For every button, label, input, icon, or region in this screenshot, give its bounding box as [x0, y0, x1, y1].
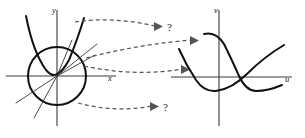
mapping-arrow-middle-upper: [86, 40, 192, 58]
source-ray-upper-right: [57, 44, 97, 76]
mapping-arrow-top-head: [154, 22, 163, 31]
target-u-axis-label: u: [285, 74, 289, 84]
question-mark-bottom: ?: [163, 101, 168, 113]
target-plane-group: v u: [171, 5, 292, 126]
mapping-arrows-group: [75, 20, 199, 111]
source-ray-lower-left: [16, 76, 57, 103]
mapping-arrow-bottom-head: [150, 102, 159, 111]
mapping-arrow-top: [75, 20, 155, 26]
mapping-arrow-bottom: [78, 103, 152, 109]
mapping-arrow-middle-upper-head: [190, 36, 199, 45]
mapping-arrow-middle-lower: [84, 66, 183, 72]
target-curve-lower: [179, 45, 284, 91]
source-x-axis-label: x: [107, 73, 112, 83]
target-curve-upper: [204, 33, 282, 91]
source-ray-upper-right-2: [57, 55, 95, 76]
target-v-axis-label: v: [214, 5, 218, 15]
figure-canvas: y x ? ?: [0, 0, 305, 138]
question-mark-top: ?: [167, 21, 172, 33]
figure-container: y x ? ?: [0, 0, 305, 138]
source-y-axis-label: y: [51, 5, 56, 15]
